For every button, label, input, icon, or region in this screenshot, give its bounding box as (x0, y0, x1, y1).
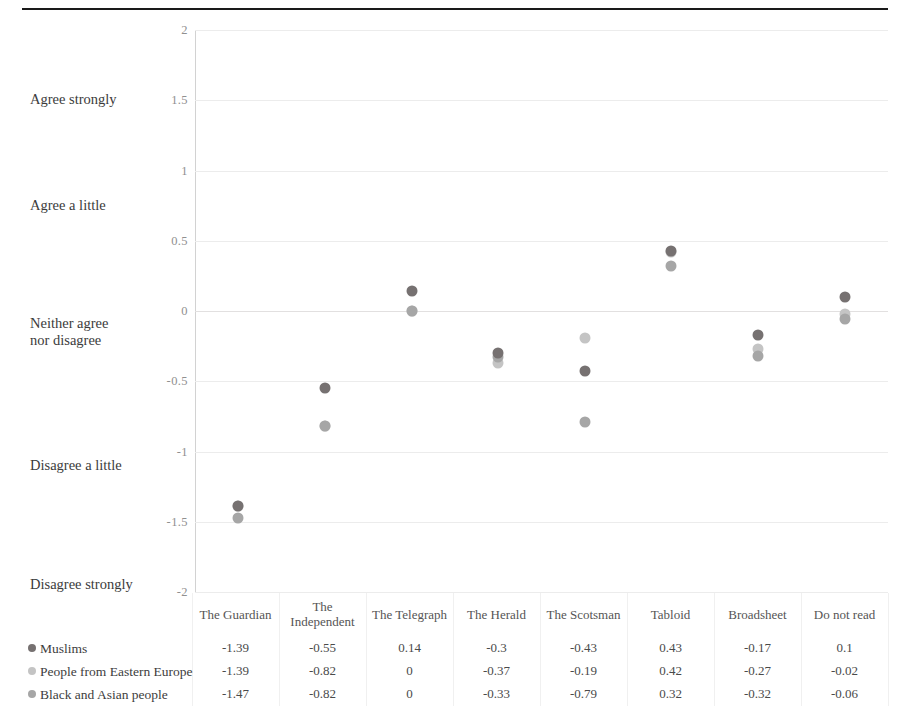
data-point (753, 329, 764, 340)
legend-entry: Muslims (22, 637, 192, 660)
top-horizontal-rule (22, 8, 888, 10)
gridline-0p5 (195, 241, 888, 242)
data-point (406, 286, 417, 297)
plot-area (195, 30, 888, 592)
table-cell-value: -0.33 (453, 683, 540, 706)
data-point (839, 314, 850, 325)
table-cell-value: -0.82 (279, 683, 366, 706)
table-cell-value: -0.55 (279, 637, 366, 660)
table-cell-value: -0.32 (714, 683, 801, 706)
data-point (579, 332, 590, 343)
gridline-1p5 (195, 100, 888, 101)
table-row: People from Eastern Europe-1.39-0.820-0.… (22, 660, 888, 683)
data-table: The GuardianThe IndependentThe Telegraph… (22, 593, 889, 706)
table-cell-value: 0 (366, 683, 453, 706)
gridline-neg1 (195, 452, 888, 453)
table-cell-value: 0 (366, 660, 453, 683)
anchor-label: Agree strongly (30, 92, 170, 109)
table-header-row: The GuardianThe IndependentThe Telegraph… (22, 593, 888, 637)
data-point (666, 245, 677, 256)
data-point (839, 291, 850, 302)
table-cell-value: 0.32 (627, 683, 714, 706)
data-point (233, 512, 244, 523)
table-cell-value: 0.42 (627, 660, 714, 683)
table-cell-value: 0.1 (801, 637, 888, 660)
table-cell-value: -0.27 (714, 660, 801, 683)
y-tick-label: -0.5 (148, 374, 188, 389)
gridline-0 (195, 311, 888, 312)
legend-dot-icon (28, 667, 36, 675)
gridline-2 (195, 30, 888, 31)
anchor-label: Agree a little (30, 197, 170, 214)
y-tick-label: 0.5 (148, 233, 188, 248)
table-cell-value: -0.37 (453, 660, 540, 683)
table-cell-value: -0.02 (801, 660, 888, 683)
table-column-header: Tabloid (627, 593, 714, 637)
table-column-header: Broadsheet (714, 593, 801, 637)
table-column-header: Do not read (801, 593, 888, 637)
table-cell-value: -1.47 (192, 683, 279, 706)
gridline-neg1p5 (195, 522, 888, 523)
table-cell-value: 0.14 (366, 637, 453, 660)
legend-label: Black and Asian people (40, 687, 168, 702)
table-column-header: The Telegraph (366, 593, 453, 637)
legend-dot-icon (28, 644, 36, 652)
legend-dot-icon (28, 690, 36, 698)
table-cell-value: -0.82 (279, 660, 366, 683)
table-row: Muslims-1.39-0.550.14-0.3-0.430.43-0.170… (22, 637, 888, 660)
table-cell-value: -0.3 (453, 637, 540, 660)
legend-entry: People from Eastern Europe (22, 660, 192, 683)
table-cell-value: -1.39 (192, 660, 279, 683)
table-column-header: The Scotsman (540, 593, 627, 637)
legend-label: People from Eastern Europe (40, 664, 193, 679)
data-table-block: The GuardianThe IndependentThe Telegraph… (22, 593, 888, 701)
data-point (753, 350, 764, 361)
gridline-1 (195, 171, 888, 172)
anchor-label: Neither agreenor disagree (30, 315, 170, 349)
y-tick-label: 1 (148, 163, 188, 178)
table-cell-value: -0.17 (714, 637, 801, 660)
legend-label: Muslims (40, 641, 87, 656)
anchor-label: Disagree a little (30, 457, 170, 474)
table-cell-value: -0.79 (540, 683, 627, 706)
table-column-header: The Independent (279, 593, 366, 637)
scatter-chart: 21.510.50-0.5-1-1.5-2 Agree stronglyAgre… (0, 22, 908, 602)
y-tick-label: -1.5 (148, 514, 188, 529)
table-column-header: The Herald (453, 593, 540, 637)
y-tick-label: 2 (148, 23, 188, 38)
data-point (493, 348, 504, 359)
gridline-neg0p5 (195, 381, 888, 382)
data-point (319, 421, 330, 432)
table-series-header (22, 593, 192, 637)
table-cell-value: -0.19 (540, 660, 627, 683)
legend-entry: Black and Asian people (22, 683, 192, 706)
data-point (666, 261, 677, 272)
data-point (579, 416, 590, 427)
table-cell-value: -0.43 (540, 637, 627, 660)
data-point (233, 501, 244, 512)
table-cell-value: 0.43 (627, 637, 714, 660)
table-column-header: The Guardian (192, 593, 279, 637)
table-cell-value: -0.06 (801, 683, 888, 706)
table-cell-value: -1.39 (192, 637, 279, 660)
table-row: Black and Asian people-1.47-0.820-0.33-0… (22, 683, 888, 706)
data-point (579, 366, 590, 377)
data-point (319, 383, 330, 394)
data-point (406, 306, 417, 317)
anchor-label: Disagree strongly (30, 576, 170, 593)
